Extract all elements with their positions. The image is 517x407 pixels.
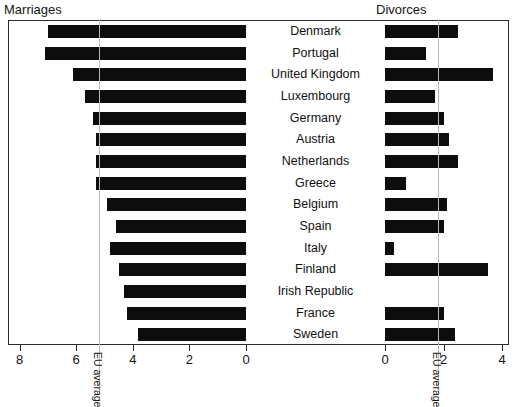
divorce-bar bbox=[385, 25, 458, 38]
axis-tick-divorces bbox=[385, 345, 386, 351]
chart-row: Luxembourg bbox=[0, 86, 517, 108]
chart-row: Italy bbox=[0, 238, 517, 260]
country-label: Luxembourg bbox=[251, 88, 380, 105]
chart-row: France bbox=[0, 303, 517, 325]
chart-row: Belgium bbox=[0, 194, 517, 216]
marriage-bar bbox=[45, 47, 246, 60]
axis-tick-divorces bbox=[502, 345, 503, 351]
divorce-bar bbox=[385, 177, 406, 190]
marriage-bar bbox=[96, 177, 246, 190]
panel-title-marriages: Marriages bbox=[4, 2, 62, 17]
marriage-bar bbox=[48, 25, 246, 38]
chart-row: Netherlands bbox=[0, 151, 517, 173]
chart-row: Austria bbox=[0, 129, 517, 151]
axis-tick-divorces bbox=[444, 345, 445, 351]
axis-tick-label-divorces: 0 bbox=[381, 352, 388, 367]
chart-row: Sweden bbox=[0, 324, 517, 346]
marriage-bar bbox=[127, 307, 246, 320]
chart-row: Denmark bbox=[0, 21, 517, 43]
divorce-bar bbox=[385, 155, 458, 168]
country-label: Netherlands bbox=[251, 153, 380, 170]
divorce-bar bbox=[385, 263, 488, 276]
divorce-bar bbox=[385, 307, 444, 320]
divorce-bar bbox=[385, 90, 435, 103]
axis-tick-label-divorces: 4 bbox=[499, 352, 506, 367]
country-label: United Kingdom bbox=[251, 66, 380, 83]
marriage-bar bbox=[96, 155, 246, 168]
eu-average-line-divorces bbox=[438, 20, 439, 345]
country-label: Austria bbox=[251, 131, 380, 148]
axis-tick-label-marriages: 6 bbox=[73, 352, 80, 367]
axis-tick-label-marriages: 8 bbox=[16, 352, 23, 367]
eu-average-line-marriages bbox=[99, 20, 100, 345]
axis-tick-label-marriages: 4 bbox=[129, 352, 136, 367]
marriage-bar bbox=[85, 90, 246, 103]
divorce-bar bbox=[385, 68, 493, 81]
chart-row: Finland bbox=[0, 259, 517, 281]
divorce-bar bbox=[385, 112, 444, 125]
axis-tick-marriages bbox=[133, 345, 134, 351]
eu-average-label-marriages: EU average bbox=[92, 352, 103, 407]
marriage-bar bbox=[93, 112, 246, 125]
marriage-bar bbox=[119, 263, 246, 276]
country-label: Greece bbox=[251, 175, 380, 192]
chart-row: Irish Republic bbox=[0, 281, 517, 303]
country-label: Portugal bbox=[251, 45, 380, 62]
chart-row: Germany bbox=[0, 108, 517, 130]
country-label: France bbox=[251, 305, 380, 322]
axis-tick-label-marriages: 2 bbox=[186, 352, 193, 367]
chart-row: United Kingdom bbox=[0, 64, 517, 86]
marriage-bar bbox=[138, 328, 246, 341]
country-label: Sweden bbox=[251, 326, 380, 343]
axis-tick-marriages bbox=[20, 345, 21, 351]
chart-row: Spain bbox=[0, 216, 517, 238]
marriage-bar bbox=[96, 133, 246, 146]
country-label: Germany bbox=[251, 110, 380, 127]
axis-tick-marriages bbox=[246, 345, 247, 351]
divorce-bar bbox=[385, 328, 455, 341]
chart-row: Greece bbox=[0, 173, 517, 195]
chart-row: Portugal bbox=[0, 43, 517, 65]
marriage-bar bbox=[110, 242, 246, 255]
country-label: Italy bbox=[251, 240, 380, 257]
country-label: Belgium bbox=[251, 196, 380, 213]
country-label: Irish Republic bbox=[251, 283, 380, 300]
marriage-bar bbox=[124, 285, 246, 298]
country-label: Spain bbox=[251, 218, 380, 235]
axis-tick-marriages bbox=[189, 345, 190, 351]
divorce-bar bbox=[385, 220, 444, 233]
panel-title-divorces: Divorces bbox=[376, 2, 427, 17]
marriage-bar bbox=[107, 198, 246, 211]
axis-tick-label-divorces: 2 bbox=[440, 352, 447, 367]
marriage-bar bbox=[116, 220, 246, 233]
axis-tick-label-marriages: 0 bbox=[242, 352, 249, 367]
axis-tick-marriages bbox=[76, 345, 77, 351]
country-label: Finland bbox=[251, 261, 380, 278]
divorce-bar bbox=[385, 133, 449, 146]
country-label: Denmark bbox=[251, 23, 380, 40]
divorce-bar bbox=[385, 242, 394, 255]
divorce-bar bbox=[385, 47, 426, 60]
